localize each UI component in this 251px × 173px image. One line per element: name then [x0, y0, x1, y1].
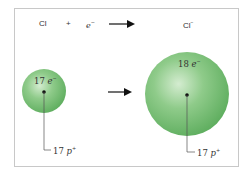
large-proton-count: 17 p+	[197, 147, 220, 158]
arrow-right-icon	[109, 20, 135, 28]
small-electron-count: 17 e−	[34, 75, 57, 86]
large-electron-count: 18 e−	[178, 58, 201, 69]
small-proton-count: 17 p+	[53, 145, 76, 156]
arrow-right-icon	[108, 88, 132, 96]
